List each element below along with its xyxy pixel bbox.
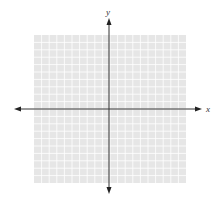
x-axis-right-arrow-icon [195, 107, 202, 112]
x-axis-label: x [205, 104, 210, 114]
y-axis-down-arrow-icon [107, 187, 112, 194]
y-axis-label: y [105, 7, 110, 17]
y-axis-up-arrow-icon [107, 18, 112, 25]
coordinate-plane: x y [0, 0, 219, 197]
x-axis-left-arrow-icon [14, 107, 21, 112]
